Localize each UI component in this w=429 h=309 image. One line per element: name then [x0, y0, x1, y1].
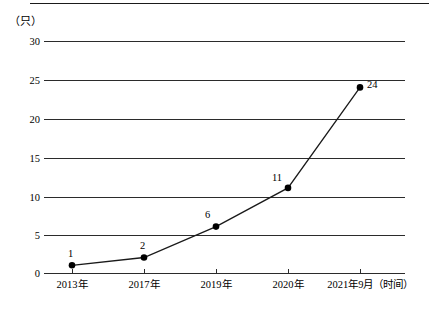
data-point-2020 [285, 185, 292, 192]
data-point-2013 [69, 262, 76, 269]
data-point-2019 [213, 223, 220, 230]
data-label-2019: 6 [205, 209, 210, 220]
data-label-2017: 2 [140, 240, 145, 251]
data-label-2021-09: 24 [367, 79, 378, 90]
data-point-2017 [141, 254, 148, 261]
data-point-2021-09 [357, 84, 364, 91]
data-label-2020: 11 [272, 172, 282, 183]
line-chart-figure: （只） 30 25 20 15 10 5 0 2013年 2017年 2019年… [0, 0, 429, 309]
series-line-group [0, 0, 429, 309]
data-label-2013: 1 [68, 248, 73, 259]
series-line [72, 87, 360, 265]
